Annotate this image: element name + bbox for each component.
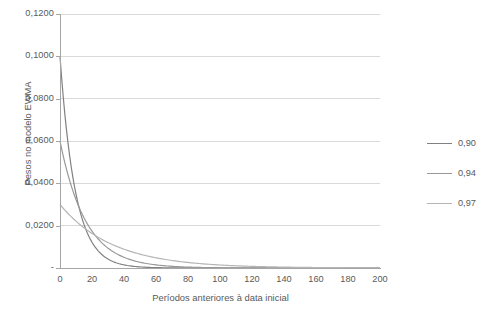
y-axis-title: Pesos no modelo EWMA xyxy=(22,44,33,224)
legend: 0,900,940,97 xyxy=(427,128,494,218)
x-axis-tick-label: 120 xyxy=(244,274,259,284)
x-axis-tick-label: 140 xyxy=(276,274,291,284)
x-axis-tick-label: 80 xyxy=(183,274,193,284)
y-axis-tick-label: 0,1200 xyxy=(0,8,54,18)
legend-color-swatch xyxy=(427,143,452,144)
legend-color-swatch xyxy=(427,203,452,204)
x-axis-tick-label: 100 xyxy=(212,274,227,284)
legend-item[interactable]: 0,97 xyxy=(427,188,494,218)
series-line xyxy=(60,56,380,268)
x-axis-tick-label: 60 xyxy=(151,274,161,284)
legend-item-label: 0,94 xyxy=(458,168,476,178)
x-axis-tick-label: 40 xyxy=(119,274,129,284)
x-axis-tick-label: 180 xyxy=(340,274,355,284)
legend-color-swatch xyxy=(427,173,452,174)
y-axis-tick-mark xyxy=(56,183,60,184)
legend-item-label: 0,97 xyxy=(458,198,476,208)
legend-item[interactable]: 0,94 xyxy=(427,158,494,188)
x-axis-tick-labels: 020406080100120140160180200 xyxy=(0,274,494,288)
series-lines xyxy=(60,14,380,268)
legend-item[interactable]: 0,90 xyxy=(427,128,494,158)
y-axis-tick-mark xyxy=(56,268,60,269)
x-axis-tick-label: 20 xyxy=(87,274,97,284)
series-line xyxy=(60,141,380,268)
y-axis-tick-mark xyxy=(56,99,60,100)
legend-item-label: 0,90 xyxy=(458,138,476,148)
y-axis-line xyxy=(60,14,61,268)
x-axis-title: Períodos anteriores à data inicial xyxy=(60,292,381,303)
y-axis-tick-mark xyxy=(56,14,60,15)
ewma-weights-chart: 0,12000,10000,08000,06000,04000,0200- 02… xyxy=(0,0,494,309)
y-axis-tick-mark xyxy=(56,141,60,142)
y-axis-tick-mark xyxy=(56,226,60,227)
x-axis-tick-label: 200 xyxy=(372,274,387,284)
x-axis-tick-label: 0 xyxy=(57,274,62,284)
x-axis-line xyxy=(60,268,381,269)
y-axis-tick-label: - xyxy=(0,262,54,272)
x-axis-tick-label: 160 xyxy=(308,274,323,284)
plot-area xyxy=(60,14,380,268)
y-axis-tick-mark xyxy=(56,56,60,57)
